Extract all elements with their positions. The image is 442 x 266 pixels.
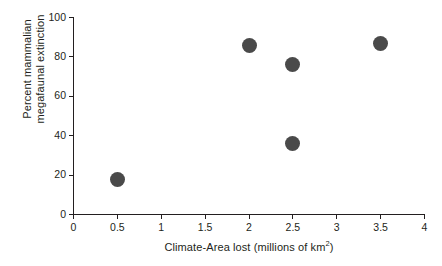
x-axis-tick <box>424 215 425 219</box>
scatter-plot-figure: Percent mammalian megafaunal extinction … <box>0 0 442 266</box>
data-point <box>373 36 388 51</box>
x-axis-tick <box>249 215 250 219</box>
x-axis-title-text: Climate-Area lost (millions of km <box>164 241 325 253</box>
y-axis-tick-label: 100 <box>26 11 66 23</box>
y-axis-tick <box>69 96 73 97</box>
x-axis-title: Climate-Area lost (millions of km2) <box>73 241 425 253</box>
x-axis-tick <box>117 215 118 219</box>
x-axis-tick <box>205 215 206 219</box>
data-point <box>285 57 300 72</box>
x-axis-tick <box>292 215 293 219</box>
data-point <box>242 38 257 53</box>
y-axis-tick-label: 20 <box>26 168 66 180</box>
x-axis-tick <box>161 215 162 219</box>
data-point <box>110 172 125 187</box>
y-axis-title-line-1: Percent mammalian <box>21 0 34 169</box>
y-axis-title: Percent mammalian megafaunal extinction <box>21 0 55 169</box>
x-axis-tick-label: 1.5 <box>185 221 225 233</box>
x-axis-tick-label: 3.5 <box>361 221 401 233</box>
x-axis-tick-label: 0.5 <box>97 221 137 233</box>
y-axis-tick-label: 40 <box>26 129 66 141</box>
y-axis-tick <box>69 135 73 136</box>
y-axis-tick-label: 60 <box>26 89 66 101</box>
y-axis-title-line-2: megafaunal extinction <box>34 0 47 169</box>
y-axis-line <box>73 17 74 215</box>
x-axis-tick-label: 0 <box>54 221 94 233</box>
x-axis-tick <box>380 215 381 219</box>
y-axis-tick <box>69 56 73 57</box>
x-axis-tick-label: 2.5 <box>273 221 313 233</box>
y-axis-tick <box>69 175 73 176</box>
x-axis-tick <box>336 215 337 219</box>
x-axis-tick-label: 2 <box>229 221 269 233</box>
x-axis-title-suffix: ) <box>330 241 334 253</box>
x-axis-tick-label: 4 <box>405 221 442 233</box>
y-axis-tick-label: 0 <box>26 208 66 220</box>
y-axis-tick <box>69 17 73 18</box>
x-axis-tick-label: 3 <box>317 221 357 233</box>
y-axis-tick-label: 80 <box>26 50 66 62</box>
x-axis-tick <box>73 215 74 219</box>
x-axis-tick-label: 1 <box>141 221 181 233</box>
data-point <box>285 136 300 151</box>
